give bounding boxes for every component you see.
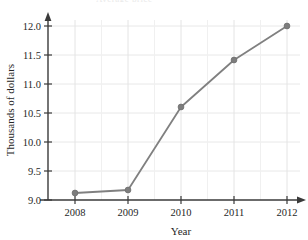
x-tick-labels: 2008 2009 2010 2011 2012 [65, 207, 298, 218]
x-axis-arrow-icon [297, 197, 306, 204]
y-tick-label: 9.0 [28, 195, 41, 206]
y-axis-arrow-icon [45, 12, 52, 21]
x-tick-label: 2012 [277, 207, 298, 218]
y-tick-label: 10.0 [23, 137, 41, 148]
x-tick-label: 2009 [118, 207, 139, 218]
data-point-2011 [231, 57, 237, 63]
data-point-2008 [72, 190, 78, 196]
y-tick-label: 10.5 [23, 108, 41, 119]
line-chart-figure: Average price [0, 0, 308, 240]
data-point-2012 [284, 23, 290, 29]
y-tick-label: 11.0 [23, 79, 41, 90]
x-tick-label: 2008 [65, 207, 86, 218]
chart-canvas: 9.0 9.5 10.0 10.5 11.0 11.5 12.0 2008 20… [0, 0, 308, 240]
x-axis-title: Year [171, 225, 192, 237]
y-tick-label: 9.5 [28, 166, 41, 177]
data-point-2010 [178, 104, 184, 110]
y-tick-label: 12.0 [23, 21, 41, 32]
x-tick-label: 2010 [171, 207, 192, 218]
y-tick-label: 11.5 [23, 50, 41, 61]
plot-background [48, 20, 300, 200]
y-axis-title: Thousands of dollars [4, 64, 16, 156]
y-tick-labels: 9.0 9.5 10.0 10.5 11.0 11.5 12.0 [23, 21, 41, 206]
data-point-2009 [125, 187, 131, 193]
x-tick-label: 2011 [224, 207, 245, 218]
